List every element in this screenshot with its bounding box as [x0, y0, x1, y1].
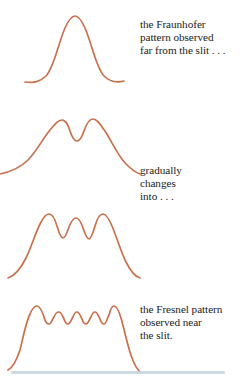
curve-four-peak-transition	[0, 192, 140, 284]
caption-gradually-line-3: into . . .	[140, 190, 244, 203]
caption-fraunhofer-line-2: pattern observed	[140, 31, 244, 44]
caption-gradually-line-1: gradually	[140, 164, 244, 177]
curve-fraunhofer-single-peak	[0, 4, 140, 94]
bottom-divider	[11, 371, 225, 374]
curve-two-lobe-transition	[0, 98, 140, 178]
caption-gradually-line-2: changes	[140, 177, 244, 190]
diffraction-figure: the Fraunhofer pattern observed far from…	[0, 0, 247, 385]
curve-path-4	[8, 306, 140, 372]
curve-path-3	[8, 214, 140, 278]
caption-fraunhofer-line-3: far from the slit . . .	[140, 44, 244, 57]
curve-path-2	[0, 119, 140, 174]
curve-fresnel-flat-top-rippled	[0, 284, 140, 376]
caption-fraunhofer-line-1: the Fraunhofer	[140, 18, 244, 31]
caption-fresnel-line-3: the slit.	[140, 329, 244, 342]
caption-fraunhofer: the Fraunhofer pattern observed far from…	[140, 18, 244, 58]
caption-fresnel: the Fresnel pattern observed near the sl…	[140, 303, 244, 343]
curve-path-1	[25, 16, 124, 82]
caption-gradually: gradually changes into . . .	[140, 164, 244, 204]
caption-fresnel-line-2: observed near	[140, 316, 244, 329]
caption-fresnel-line-1: the Fresnel pattern	[140, 303, 244, 316]
